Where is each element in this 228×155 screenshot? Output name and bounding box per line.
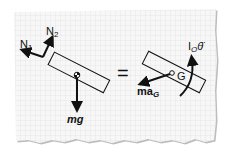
label-moment: IOθ̈ (188, 40, 205, 54)
center-of-mass-marker-left (74, 72, 80, 78)
point-g-marker (170, 71, 175, 76)
label-g: G (177, 70, 186, 82)
free-body-diagram: N1 N2 mg = G maG IOθ̈ (0, 0, 228, 155)
label-mg: mg (67, 113, 84, 125)
equals-sign: = (117, 62, 129, 84)
